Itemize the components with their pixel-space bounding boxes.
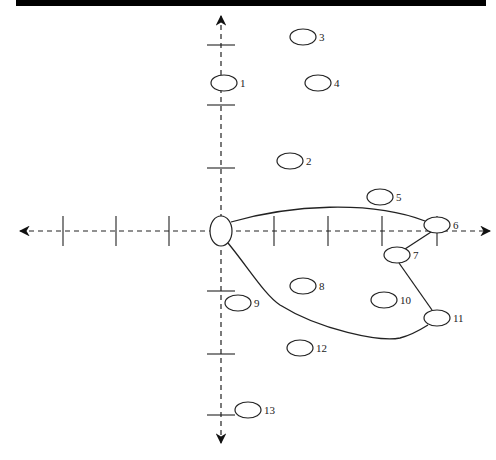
- node-label: 5: [396, 191, 402, 203]
- axes: [20, 16, 490, 443]
- node-10[interactable]: 10: [371, 292, 412, 308]
- node-4[interactable]: 4: [305, 75, 340, 91]
- node-7[interactable]: 7: [384, 247, 419, 263]
- node-label: 10: [400, 294, 412, 306]
- node-label: 7: [413, 249, 419, 261]
- node-label: 4: [334, 77, 340, 89]
- node-5[interactable]: 5: [367, 189, 402, 205]
- node-label: 2: [306, 155, 312, 167]
- node-3[interactable]: 3: [290, 29, 325, 45]
- graph-diagram: 12345678910111213: [0, 0, 496, 460]
- axis-ticks: [63, 45, 437, 415]
- node-label: 11: [453, 312, 464, 324]
- node-label: 13: [264, 404, 276, 416]
- node-label: 1: [240, 77, 246, 89]
- node-label: 3: [319, 31, 325, 43]
- node-origin[interactable]: [210, 216, 232, 246]
- node-1[interactable]: 1: [211, 75, 246, 91]
- node-6[interactable]: 6: [424, 217, 459, 233]
- node-label: 9: [254, 297, 260, 309]
- node-13[interactable]: 13: [235, 402, 276, 418]
- node-label: 12: [316, 342, 327, 354]
- node-9[interactable]: 9: [225, 295, 260, 311]
- node-8[interactable]: 8: [290, 278, 325, 294]
- node-12[interactable]: 12: [287, 340, 327, 356]
- node-11[interactable]: 11: [424, 310, 464, 326]
- node-2[interactable]: 2: [277, 153, 312, 169]
- node-label: 6: [453, 219, 459, 231]
- node-label: 8: [319, 280, 325, 292]
- nodes: 12345678910111213: [210, 29, 464, 418]
- edge-6-7: [405, 232, 431, 249]
- edges: [228, 207, 432, 339]
